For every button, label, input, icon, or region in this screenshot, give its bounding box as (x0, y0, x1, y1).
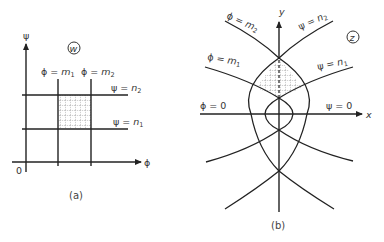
curve-lower-left-2 (225, 171, 279, 209)
figure-b-z-plane: y x z ϕ = m2 ψ = n2 ϕ = m1 ψ = n1 ϕ = 0 … (200, 6, 372, 231)
label-psi-n1-a: ψ = n1 (113, 116, 143, 129)
label-psi-n2-a: ψ = n2 (111, 82, 141, 95)
caption-a: (a) (69, 190, 83, 201)
label-psi-n1-b: ψ = n1 (316, 55, 348, 74)
psi-axis-label: ψ (23, 30, 29, 41)
plane-label-w: w (70, 43, 78, 54)
label-psi-0-b: ψ = 0 (326, 100, 352, 111)
x-axis-label: x (365, 109, 372, 120)
shaded-region-a (58, 95, 91, 129)
origin-label: 0 (16, 165, 22, 176)
label-phi-m1-b: ϕ = m1 (206, 51, 241, 69)
figure-a-w-plane: ψ ϕ 0 w ϕ = m1 ϕ = m2 ψ = n2 ψ = n1 (a) (12, 30, 150, 201)
phi-axis-label: ϕ (144, 157, 150, 168)
conformal-mapping-figure: ψ ϕ 0 w ϕ = m1 ϕ = m2 ψ = n2 ψ = n1 (a) (0, 0, 384, 242)
y-axis-label: y (278, 6, 285, 17)
label-psi-n2-b: ψ = n2 (296, 9, 329, 33)
plane-label-z: z (349, 32, 356, 43)
label-phi-m2-b: ϕ = m2 (224, 10, 260, 36)
label-phi-m2-a: ϕ = m2 (81, 66, 115, 79)
curve-lower-right-2 (279, 171, 334, 209)
label-phi-0-b: ϕ = 0 (200, 100, 226, 111)
caption-b: (b) (271, 220, 285, 231)
label-phi-m1-a: ϕ = m1 (41, 66, 75, 79)
